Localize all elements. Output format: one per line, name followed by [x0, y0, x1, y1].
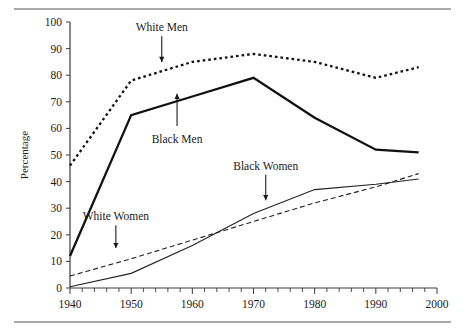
series-line-black-women — [70, 179, 419, 287]
annotation-label-black-men: Black Men — [152, 133, 203, 145]
y-tick-label: 0 — [56, 282, 62, 294]
series-line-white-women — [70, 174, 419, 276]
y-tick-label: 30 — [51, 202, 63, 214]
y-axis-title: Percentage — [18, 131, 30, 179]
series-line-white-men — [70, 54, 419, 166]
annotation-label-white-women: White Women — [83, 210, 149, 222]
x-tick-label: 1960 — [181, 298, 204, 310]
annotation-arrowhead-white-men — [159, 57, 164, 62]
line-chart: 0102030405060708090100194019501960197019… — [0, 0, 465, 331]
x-tick-label: 1980 — [303, 298, 326, 310]
x-tick-label: 1970 — [242, 298, 265, 310]
x-tick-label: 1990 — [364, 298, 387, 310]
y-tick-label: 80 — [51, 69, 63, 81]
y-tick-label: 20 — [51, 229, 63, 241]
y-tick-label: 60 — [51, 122, 63, 134]
y-tick-label: 50 — [51, 149, 63, 161]
y-tick-label: 40 — [51, 176, 63, 188]
y-tick-label: 90 — [51, 43, 63, 55]
annotation-label-black-women: Black Women — [233, 160, 298, 172]
x-tick-label: 1940 — [59, 298, 82, 310]
annotation-arrowhead-white-women — [113, 243, 118, 248]
y-tick-label: 10 — [51, 255, 63, 267]
y-tick-label: 100 — [45, 16, 63, 28]
annotation-label-white-men: White Men — [136, 21, 188, 33]
x-tick-label: 1950 — [120, 298, 143, 310]
y-tick-label: 70 — [51, 96, 63, 108]
x-tick-label: 2000 — [426, 298, 449, 310]
chart-container: 0102030405060708090100194019501960197019… — [0, 0, 465, 331]
annotation-arrowhead-black-women — [263, 195, 268, 200]
annotation-arrowhead-black-men — [174, 94, 179, 99]
